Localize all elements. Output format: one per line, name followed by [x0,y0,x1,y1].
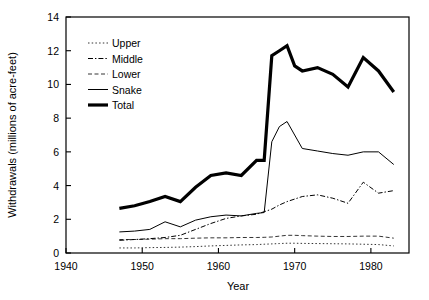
legend-label-upper: Upper [112,37,141,49]
data-series-layer [119,46,393,248]
x-tick-label: 1980 [359,260,383,272]
y-axis-ticks: 02468101214 [47,11,71,259]
x-axis-title: Year [227,280,250,292]
y-tick-label: 2 [53,213,59,225]
series-line-snake [119,122,393,232]
chart-legend: UpperMiddleLowerSnakeTotal [88,37,143,111]
x-tick-label: 1960 [207,260,231,272]
series-line-upper [119,243,393,248]
withdrawals-line-chart: 02468101214 19401950196019701980 Year Wi… [0,0,429,300]
y-tick-label: 0 [53,247,59,259]
y-tick-label: 12 [47,45,59,57]
series-line-lower [119,235,393,239]
y-tick-label: 4 [53,180,59,192]
x-tick-label: 1950 [131,260,155,272]
y-tick-label: 6 [53,146,59,158]
y-tick-label: 14 [47,11,59,23]
series-line-total [119,46,393,209]
y-tick-label: 8 [53,112,59,124]
legend-label-middle: Middle [112,53,143,65]
series-line-middle [119,182,393,240]
x-axis-ticks: 19401950196019701980 [54,248,382,272]
legend-label-snake: Snake [112,84,142,96]
legend-label-lower: Lower [112,68,141,80]
chart-container: 02468101214 19401950196019701980 Year Wi… [0,0,429,300]
y-tick-label: 10 [47,78,59,90]
x-tick-label: 1940 [54,260,78,272]
y-axis-title: Withdrawals (millions of acre-feet) [6,52,18,218]
x-tick-label: 1970 [283,260,307,272]
legend-label-total: Total [112,99,134,111]
